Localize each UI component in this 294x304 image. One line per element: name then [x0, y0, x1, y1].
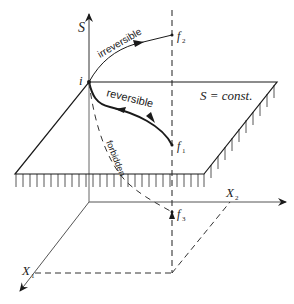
s-axis-label: S	[78, 20, 85, 35]
svg-text:2: 2	[235, 194, 239, 202]
i-label: i	[79, 73, 83, 88]
svg-text:X: X	[225, 185, 235, 200]
svg-text:1: 1	[182, 147, 186, 155]
forbidden-label: forbidden	[104, 139, 127, 178]
svg-text:3: 3	[182, 215, 186, 223]
plane-label: S = const.	[200, 88, 252, 103]
point-f1	[171, 144, 174, 147]
plane-hatching-bottom	[16, 174, 204, 187]
projection-dashed-x2	[172, 202, 230, 273]
svg-text:2: 2	[182, 37, 186, 45]
f2-label: f 2	[177, 29, 186, 45]
point-i	[87, 80, 91, 84]
x1-axis-label: X 1	[21, 263, 35, 280]
entropy-diagram: S i f 2 f 1 f 3 S = const. X 2 X 1 irrev…	[0, 0, 294, 304]
reversible-label: reversible	[106, 86, 155, 109]
point-f3	[171, 211, 174, 214]
point-f2	[171, 34, 174, 37]
x2-axis-label: X 2	[225, 185, 239, 202]
svg-text:X: X	[21, 263, 31, 278]
f1-label: f 1	[177, 139, 186, 155]
svg-text:1: 1	[31, 272, 35, 280]
f3-label: f 3	[177, 207, 186, 223]
irreversible-arrowhead	[133, 40, 144, 47]
